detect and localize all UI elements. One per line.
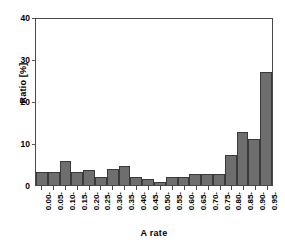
x-tick-mark (255, 186, 256, 190)
x-tick-mark (136, 186, 137, 190)
x-tick-mark (184, 186, 185, 190)
bar (60, 161, 72, 185)
plot-area (35, 18, 273, 186)
x-tick-mark (112, 186, 113, 190)
y-tick-label: 40 (8, 14, 30, 23)
x-label-slot: 0.25- (95, 192, 107, 224)
x-label-slot: 0.75- (214, 192, 226, 224)
x-tick-mark (77, 186, 78, 190)
bar (225, 155, 237, 185)
x-label-slot: 0.50- (154, 192, 166, 224)
x-tick-mark (267, 186, 268, 190)
bar (248, 139, 260, 185)
x-tick-mark (220, 186, 221, 190)
bar (178, 177, 190, 185)
bar (237, 132, 249, 185)
x-tick-mark (160, 186, 161, 190)
bar (201, 174, 213, 185)
y-tick-label: 20 (8, 98, 30, 107)
x-tick-mark (41, 186, 42, 190)
x-tick-label: 0.95- (271, 192, 279, 210)
bar (213, 174, 225, 185)
x-label-slot: 0.80- (226, 192, 238, 224)
bar (36, 172, 48, 185)
y-tick-label: 10 (8, 140, 30, 149)
x-label-slot: 0.00- (35, 192, 47, 224)
x-label-slot: 0.45- (142, 192, 154, 224)
x-axis-title: A rate (35, 228, 273, 238)
y-tick-label: 30 (8, 56, 30, 65)
bar (107, 169, 119, 185)
bar (95, 177, 107, 185)
x-label-slot: 0.55- (166, 192, 178, 224)
bar (260, 72, 272, 185)
x-label-slot: 0.70- (202, 192, 214, 224)
x-tick-mark (148, 186, 149, 190)
x-label-slot: 0.20- (83, 192, 95, 224)
bar (83, 170, 95, 185)
x-label-slot: 0.60- (178, 192, 190, 224)
x-tick-mark (243, 186, 244, 190)
bar (142, 179, 154, 185)
x-label-slot: 0.95- (261, 192, 273, 224)
bar (71, 172, 83, 185)
x-tick-mark (65, 186, 66, 190)
bar (154, 182, 166, 185)
y-tick-label: 0 (8, 182, 30, 191)
x-tick-mark (231, 186, 232, 190)
x-label-slot: 0.35- (118, 192, 130, 224)
x-label-slot: 0.30- (106, 192, 118, 224)
histogram-figure: Ratio [%] 010203040 0.00-0.05-0.10-0.15-… (0, 0, 285, 247)
y-axis-ticks: 010203040 (8, 0, 30, 247)
x-axis-tick-labels: 0.00-0.05-0.10-0.15-0.20-0.25-0.30-0.35-… (35, 192, 273, 224)
x-label-slot: 0.85- (237, 192, 249, 224)
x-tick-mark (208, 186, 209, 190)
bar (189, 174, 201, 185)
x-label-slot: 0.65- (190, 192, 202, 224)
x-label-slot: 0.40- (130, 192, 142, 224)
x-tick-mark (53, 186, 54, 190)
bar (130, 177, 142, 185)
x-label-slot: 0.05- (47, 192, 59, 224)
x-label-slot: 0.90- (249, 192, 261, 224)
bar-series (36, 19, 272, 185)
bar (48, 172, 60, 185)
x-tick-mark (172, 186, 173, 190)
x-tick-mark (124, 186, 125, 190)
x-tick-mark (89, 186, 90, 190)
x-tick-mark (196, 186, 197, 190)
bar (119, 166, 131, 185)
x-tick-mark (100, 186, 101, 190)
x-label-slot: 0.10- (59, 192, 71, 224)
x-label-slot: 0.15- (71, 192, 83, 224)
bar (166, 177, 178, 185)
